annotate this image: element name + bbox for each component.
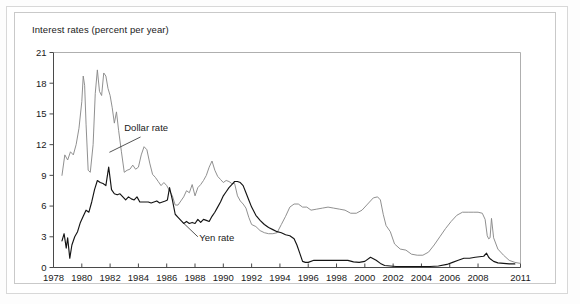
annotation-leader-line bbox=[109, 137, 140, 152]
x-tick-label: 2006 bbox=[439, 272, 460, 283]
y-tick-label: 12 bbox=[36, 139, 47, 150]
x-tick-label: 1980 bbox=[71, 272, 92, 283]
x-tick-label: 1996 bbox=[298, 272, 319, 283]
x-tick-label: 2000 bbox=[354, 272, 375, 283]
x-tick-label: 1992 bbox=[241, 272, 262, 283]
y-tick-label: 9 bbox=[41, 170, 46, 181]
y-tick-label: 15 bbox=[36, 108, 47, 119]
y-tick-label: 6 bbox=[41, 200, 46, 211]
x-tick-label: 1978 bbox=[43, 272, 64, 283]
x-tick-label: 2011 bbox=[510, 272, 530, 283]
x-tick-label: 1986 bbox=[156, 272, 177, 283]
y-tick-label: 21 bbox=[36, 47, 47, 58]
x-tick-label: 2002 bbox=[383, 272, 404, 283]
y-tick-label: 18 bbox=[36, 78, 47, 89]
series-line-dollar-rate bbox=[62, 70, 521, 264]
x-tick-label: 2004 bbox=[411, 272, 432, 283]
x-tick-label: 1982 bbox=[100, 272, 121, 283]
x-tick-label: 1998 bbox=[326, 272, 347, 283]
x-tick-label: 1988 bbox=[184, 272, 205, 283]
annotation-label-yen-rate: Yen rate bbox=[199, 232, 234, 243]
annotation-leader-line bbox=[182, 222, 198, 237]
figure-page: Interest rates (percent per year) 036912… bbox=[0, 0, 580, 304]
x-tick-label: 1990 bbox=[213, 272, 234, 283]
series-line-yen-rate bbox=[62, 167, 515, 266]
annotation-label-dollar-rate: Dollar rate bbox=[124, 122, 168, 133]
x-tick-label: 1984 bbox=[128, 272, 149, 283]
line-chart: 0369121518211978198019821984198619881990… bbox=[0, 0, 580, 304]
y-tick-label: 3 bbox=[41, 231, 46, 242]
x-tick-label: 2008 bbox=[467, 272, 488, 283]
x-tick-label: 1994 bbox=[269, 272, 290, 283]
